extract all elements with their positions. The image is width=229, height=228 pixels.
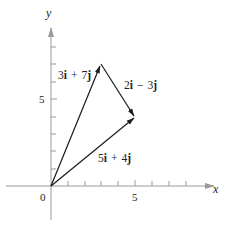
unit-j: j	[86, 69, 91, 82]
x-axis-label: x	[212, 182, 219, 196]
unit-j: j	[126, 152, 131, 165]
y-axis-ticks	[51, 47, 57, 169]
vector-3i-plus-7j	[51, 66, 100, 186]
label-5i-plus-4j: 5i+4j	[98, 152, 131, 165]
origin-label: 0	[40, 191, 46, 203]
x-axis-ticks	[68, 180, 186, 186]
vector-diagram: y x 0 5 5 3i+7j 2i−3j 5i+4j	[0, 0, 229, 228]
label-2i-minus-3j: 2i−3j	[124, 79, 157, 92]
y-axis	[51, 28, 57, 220]
label-3i-plus-7j: 3i+7j	[58, 69, 91, 82]
unit-i: i	[104, 152, 108, 164]
y-axis-label: y	[45, 6, 52, 20]
unit-j: j	[152, 79, 157, 92]
label-2i-minus-3j-op: −	[137, 79, 144, 91]
y-tick-label-5: 5	[39, 93, 45, 105]
label-3i-plus-7j-op: +	[71, 69, 78, 81]
unit-i: i	[64, 69, 68, 81]
x-axis	[6, 180, 214, 186]
unit-i: i	[130, 79, 134, 91]
label-5i-plus-4j-op: +	[111, 152, 118, 164]
x-tick-label-5: 5	[132, 191, 138, 203]
